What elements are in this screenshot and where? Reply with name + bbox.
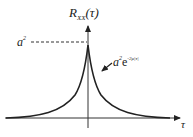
curve-label: a2e-2μ|τ| bbox=[113, 55, 139, 69]
curve-pointer-arrow bbox=[102, 63, 112, 71]
peak-label: a2 bbox=[17, 35, 26, 49]
y-axis-title: RXX(τ) bbox=[68, 5, 99, 22]
x-axis-label: τ bbox=[181, 118, 186, 130]
autocorrelation-diagram: RXX(τ) a2 a2e-2μ|τ| τ bbox=[0, 0, 193, 137]
